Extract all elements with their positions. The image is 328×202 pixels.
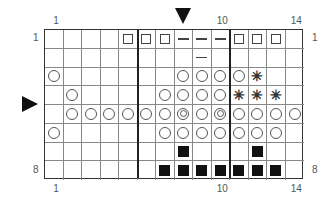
circle-icon (177, 89, 189, 101)
grid-cell-r5-c8 (175, 105, 194, 124)
grid-cell-r5-c10 (212, 105, 231, 124)
circle-icon (233, 70, 245, 82)
circle-icon (48, 127, 60, 139)
grid-cell-r1-c10 (212, 30, 231, 49)
grid-cell-r2-c10 (212, 49, 231, 68)
top-column-label: 1 (53, 16, 59, 26)
grid-cell-r2-c9 (193, 49, 212, 68)
grid-cell-r3-c12: ✳ (249, 68, 268, 87)
grid-cell-r8-c13 (267, 161, 286, 180)
grid-cell-r3-c11 (230, 68, 249, 87)
grid-cell-r2-c12 (249, 49, 268, 68)
grid-cell-r7-c12 (249, 143, 268, 162)
open-square-icon (234, 34, 244, 44)
grid-cell-r8-c9 (193, 161, 212, 180)
grid-cell-r5-c14 (286, 105, 305, 124)
bottom-column-label: 1 (53, 184, 59, 194)
grid-cell-r4-c6 (138, 86, 157, 105)
grid-cell-r6-c8 (175, 124, 194, 143)
grid-cell-r1-c9 (193, 30, 212, 49)
grid-cell-r3-c10 (212, 68, 231, 87)
grid-cell-r6-c3 (82, 124, 101, 143)
top-column-label: 14 (291, 16, 302, 26)
circle-icon (66, 108, 78, 120)
grid-cell-r4-c11: ✳ (230, 86, 249, 105)
dash-icon (196, 38, 207, 40)
grid-cell-r6-c14 (286, 124, 305, 143)
filled-square-icon (233, 165, 244, 176)
grid-cell-r2-c1 (45, 49, 64, 68)
grid-cell-r8-c4 (101, 161, 120, 180)
circle-icon (233, 108, 245, 120)
grid-cell-r6-c7 (156, 124, 175, 143)
grid-cell-r2-c5 (119, 49, 138, 68)
grid-cell-r3-c2 (64, 68, 83, 87)
grid-cell-r6-c4 (101, 124, 120, 143)
grid-cell-r7-c10 (212, 143, 231, 162)
grid-cell-r8-c2 (64, 161, 83, 180)
filled-square-icon (270, 165, 281, 176)
circle-icon (66, 89, 78, 101)
grid-cell-r8-c10 (212, 161, 231, 180)
filled-square-icon (252, 146, 263, 157)
grid-cell-r4-c10 (212, 86, 231, 105)
grid-cell-r1-c11 (230, 30, 249, 49)
grid-cell-r6-c10 (212, 124, 231, 143)
circle-icon (122, 108, 134, 120)
circle-icon (214, 89, 226, 101)
grid-cell-r3-c14 (286, 68, 305, 87)
left-row-label: 1 (33, 33, 39, 43)
grid-cell-r8-c6 (138, 161, 157, 180)
circle-icon (251, 127, 263, 139)
grid-cell-r3-c6 (138, 68, 157, 87)
grid-cell-r5-c1 (45, 105, 64, 124)
right-arrow-icon (22, 96, 38, 112)
grid-cell-r4-c2 (64, 86, 83, 105)
column-divider (229, 30, 231, 178)
filled-square-icon (252, 165, 263, 176)
circle-icon (289, 108, 301, 120)
open-square-icon (123, 34, 133, 44)
grid-cell-r6-c1 (45, 124, 64, 143)
circle-icon (48, 70, 60, 82)
circle-icon (251, 108, 263, 120)
circle-icon (196, 108, 208, 120)
grid-cell-r5-c6 (138, 105, 157, 124)
asterisk-icon: ✳ (233, 89, 245, 101)
grid-cell-r5-c9 (193, 105, 212, 124)
grid-cell-r1-c2 (64, 30, 83, 49)
grid-cell-r2-c13 (267, 49, 286, 68)
grid-cell-r3-c3 (82, 68, 101, 87)
asterisk-icon: ✳ (270, 89, 282, 101)
grid-cell-r2-c11 (230, 49, 249, 68)
grid-cell-r7-c14 (286, 143, 305, 162)
filled-square-icon (196, 165, 207, 176)
grid-cell-r8-c14 (286, 161, 305, 180)
circle-icon (233, 127, 245, 139)
grid-cell-r4-c12: ✳ (249, 86, 268, 105)
grid-cell-r2-c8 (175, 49, 194, 68)
grid-cell-r6-c12 (249, 124, 268, 143)
filled-square-icon (178, 165, 189, 176)
open-square-icon (271, 34, 281, 44)
chart-grid: ✳✳✳✳ (44, 29, 303, 179)
grid-cell-r1-c8 (175, 30, 194, 49)
grid-cell-r1-c6 (138, 30, 157, 49)
grid-cell-r7-c7 (156, 143, 175, 162)
grid-cell-r7-c4 (101, 143, 120, 162)
right-row-label: 1 (312, 33, 318, 43)
dash-icon (215, 38, 226, 40)
grid-cell-r7-c13 (267, 143, 286, 162)
grid-cell-r3-c4 (101, 68, 120, 87)
grid-cell-r1-c5 (119, 30, 138, 49)
grid-cell-r5-c7 (156, 105, 175, 124)
asterisk-icon: ✳ (251, 89, 263, 101)
circle-icon (85, 108, 97, 120)
grid-cell-r3-c7 (156, 68, 175, 87)
grid-cell-r4-c7 (156, 86, 175, 105)
grid-cell-r4-c14 (286, 86, 305, 105)
grid-cell-r4-c1 (45, 86, 64, 105)
down-arrow-icon (175, 8, 191, 24)
grid-cell-r1-c12 (249, 30, 268, 49)
circle-icon (159, 127, 171, 139)
